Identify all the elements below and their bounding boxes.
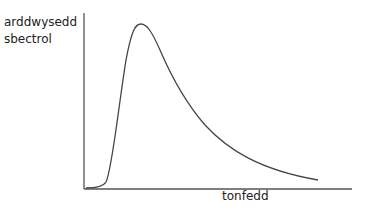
x-axis-label: tonfedd [222, 189, 269, 203]
spectrum-plot [0, 0, 367, 214]
spectrum-curve [86, 24, 318, 188]
